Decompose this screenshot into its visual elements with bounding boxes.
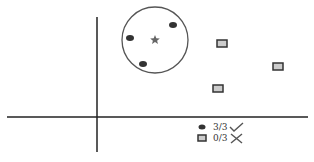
legend-row-ellipse: 3/3 [210,121,231,132]
rectangle-point [213,85,223,92]
star-icon [150,35,160,44]
rectangle-point [217,40,227,47]
ellipse-point [169,22,177,28]
rectangle-point [273,63,283,70]
ellipse-point [139,61,147,67]
legend-label: 0/3 [213,133,231,143]
legend-rectangle-icon [198,135,206,141]
ellipse-point [126,35,134,41]
check-icon [230,123,243,131]
legend-label: 3/3 [213,122,231,132]
legend-row-rectangle: 0/3 [210,132,231,143]
diagram-canvas [0,0,314,162]
cluster [122,7,188,73]
legend-ellipse-icon [199,125,206,130]
legend: 3/3 0/3 [210,121,231,143]
outliers [213,40,283,92]
